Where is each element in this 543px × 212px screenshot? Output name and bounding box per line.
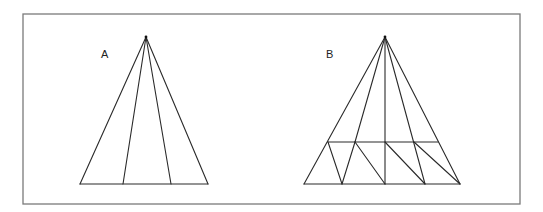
triangle-figure-b: B xyxy=(304,36,460,184)
apex-point xyxy=(145,36,148,39)
line-segment xyxy=(304,37,385,184)
line-segment xyxy=(80,37,146,184)
line-segment xyxy=(146,37,171,184)
diagram-canvas: A B xyxy=(0,0,543,212)
line-segment xyxy=(385,37,425,184)
line-segment xyxy=(146,37,208,184)
triangle-figure-a: A xyxy=(80,36,208,184)
line-segment xyxy=(328,142,342,184)
line-segment xyxy=(355,37,385,142)
line-segment xyxy=(355,142,385,184)
figure-label-a: A xyxy=(101,48,109,60)
line-segment xyxy=(342,142,355,184)
figure-label-b: B xyxy=(326,48,333,60)
line-segment xyxy=(123,37,146,184)
line-segment xyxy=(385,37,460,184)
triangle-a-segments xyxy=(80,36,208,184)
diagram-frame xyxy=(23,14,520,204)
line-segment xyxy=(414,142,460,184)
apex-point xyxy=(384,36,387,39)
